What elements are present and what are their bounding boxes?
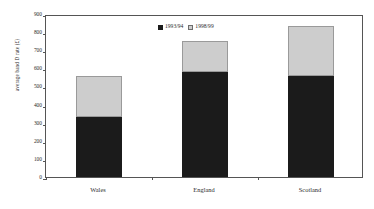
legend-entry: 1993/94 [158, 24, 183, 30]
x-axis-category-label: Wales [58, 186, 138, 193]
legend-label: 1998/99 [195, 24, 213, 30]
y-axis-tick-label: 800 [16, 30, 42, 35]
y-axis-tick-mark [43, 88, 46, 89]
bar-segment [76, 76, 122, 118]
y-axis-tick-mark [43, 161, 46, 162]
y-axis-tick-label: 700 [16, 48, 42, 53]
bar-group [182, 41, 228, 177]
y-axis-tick-mark [43, 107, 46, 108]
chart-legend: 1993/941998/99 [158, 22, 214, 32]
x-axis-category-label: Scotland [270, 186, 350, 193]
y-axis-tick-label: 0 [16, 175, 42, 180]
bar-segment [288, 26, 334, 76]
y-axis-tick-label: 300 [16, 121, 42, 126]
x-axis-tick-mark [152, 177, 153, 180]
bar-chart: average band D rate (£) 0100200300400500… [0, 0, 374, 209]
bar-group [76, 76, 122, 177]
y-axis-tick-mark [43, 34, 46, 35]
y-axis-tick-mark [43, 52, 46, 53]
legend-entry: 1998/99 [188, 24, 213, 30]
bar-segment [76, 117, 122, 177]
x-axis-tick-labels: WalesEnglandScotland [45, 186, 363, 200]
y-axis-tick-label: 600 [16, 66, 42, 71]
y-axis-tick-labels: 0100200300400500600700800900 [12, 0, 42, 209]
x-axis-tick-mark [258, 177, 259, 180]
y-axis-tick-mark [43, 125, 46, 126]
bar-segment [182, 41, 228, 72]
legend-swatch-dark-icon [158, 25, 163, 30]
y-axis-tick-mark [43, 70, 46, 71]
y-axis-tick-label: 400 [16, 103, 42, 108]
legend-label: 1993/94 [165, 24, 183, 30]
x-axis-tick-mark [46, 177, 47, 180]
plot-area [45, 15, 363, 178]
y-axis-tick-label: 500 [16, 84, 42, 89]
y-axis-tick-mark [43, 16, 46, 17]
y-axis-tick-label: 200 [16, 139, 42, 144]
x-axis-category-label: England [164, 186, 244, 193]
bar-segment [288, 76, 334, 177]
bar-segment [182, 72, 228, 177]
y-axis-tick-mark [43, 143, 46, 144]
bar-group [288, 26, 334, 177]
legend-swatch-light-icon [188, 25, 193, 30]
y-axis-tick-label: 900 [16, 12, 42, 17]
y-axis-tick-label: 100 [16, 157, 42, 162]
